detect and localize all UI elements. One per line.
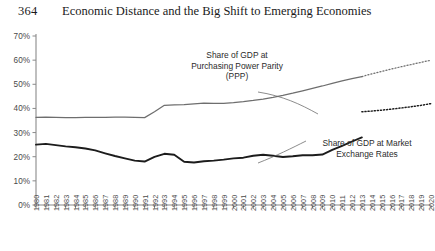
running-head-title: Economic Distance and the Big Shift to E…: [62, 4, 371, 19]
chart-annotations: Share of GDP atPurchasing Power Parity(P…: [191, 50, 412, 163]
x-axis: 1980198119821983198419851986198719881989…: [32, 195, 435, 211]
x-axis-tick-label: 1995: [180, 195, 189, 211]
y-axis-tick-label: 60%: [14, 56, 30, 65]
y-axis-tick-label: 20%: [14, 153, 30, 162]
chart-figure: 0%10%20%30%40%50%60%70% 1980198119821983…: [0, 26, 435, 251]
x-axis-tick-label: 1999: [220, 195, 229, 211]
page-number: 364: [18, 4, 38, 19]
annotation-market-line: Exchange Rates: [336, 149, 397, 159]
x-axis-tick-label: 2019: [417, 195, 426, 211]
page-header: 364 Economic Distance and the Big Shift …: [0, 0, 435, 26]
line-chart: 0%10%20%30%40%50%60%70% 1980198119821983…: [0, 26, 435, 251]
x-axis-tick-label: 1998: [210, 195, 219, 211]
x-axis-tick-label: 1991: [141, 195, 150, 211]
annotation-ppp-line: (PPP): [226, 71, 249, 81]
x-axis-tick-label: 1989: [121, 195, 130, 211]
annotation-market-line: Share of GDP at Market: [322, 138, 412, 148]
y-axis-tick-label: 50%: [14, 80, 30, 89]
annotation-ppp-line: Share of GDP at: [206, 50, 268, 60]
y-axis-tick-label: 10%: [14, 177, 30, 186]
x-axis-tick-label: 1997: [200, 195, 209, 211]
x-axis-tick-label: 2009: [318, 195, 327, 211]
x-axis-tick-label: 1982: [52, 195, 61, 211]
x-axis-tick-label: 1996: [190, 195, 199, 211]
x-axis-tick-label: 2003: [259, 195, 268, 211]
x-axis-tick-label: 2006: [289, 195, 298, 211]
x-axis-tick-label: 1980: [32, 195, 41, 211]
x-axis-tick-label: 2018: [407, 195, 416, 211]
x-axis-tick-label: 2004: [269, 195, 278, 211]
x-axis-tick-label: 2017: [397, 195, 406, 211]
x-axis-tick-label: 1983: [62, 195, 71, 211]
annotation-ppp-leader: [258, 92, 318, 114]
x-axis-tick-label: 2000: [230, 195, 239, 211]
x-axis-tick-label: 2005: [279, 195, 288, 211]
series-market-projection: [362, 104, 431, 112]
x-axis-tick-label: 2008: [309, 195, 318, 211]
x-axis-tick-label: 2001: [239, 195, 248, 211]
y-axis-tick-label: 40%: [14, 104, 30, 113]
x-axis-tick-label: 2013: [358, 195, 367, 211]
x-axis-tick-label: 2016: [388, 195, 397, 211]
series-market-solid: [36, 137, 362, 162]
x-axis-tick-label: 1985: [81, 195, 90, 211]
y-axis-tick-label: 30%: [14, 129, 30, 138]
annotation-ppp-line: Purchasing Power Parity: [191, 61, 284, 71]
x-axis-tick-label: 2020: [427, 195, 435, 211]
x-axis-tick-label: 1992: [151, 195, 160, 211]
x-axis-tick-label: 2014: [368, 195, 377, 211]
x-axis-tick-label: 1987: [101, 195, 110, 211]
x-axis-tick-label: 2011: [338, 195, 347, 211]
x-axis-tick-label: 1988: [111, 195, 120, 211]
y-axis-tick-label: 70%: [14, 32, 30, 41]
x-axis-tick-label: 1990: [131, 195, 140, 211]
x-axis-tick-label: 1984: [72, 195, 81, 211]
x-axis-tick-label: 2002: [249, 195, 258, 211]
x-axis-tick-label: 1981: [42, 195, 51, 211]
x-axis-tick-label: 1986: [91, 195, 100, 211]
x-axis-tick-label: 2010: [328, 195, 337, 211]
annotation-market-leader: [258, 141, 306, 163]
series-ppp-projection: [362, 60, 431, 76]
x-axis-tick-label: 1994: [170, 195, 179, 211]
x-axis-tick-label: 2015: [378, 195, 387, 211]
y-axis: 0%10%20%30%40%50%60%70%: [14, 32, 36, 210]
y-axis-tick-label: 0%: [18, 201, 30, 210]
x-axis-tick-label: 2012: [348, 195, 357, 211]
x-axis-tick-label: 1993: [160, 195, 169, 211]
x-axis-tick-label: 2007: [299, 195, 308, 211]
